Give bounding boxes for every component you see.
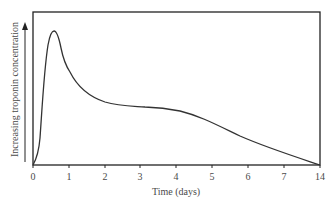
tick-label: 0	[31, 171, 36, 182]
tick-label: 6	[246, 171, 251, 182]
plot-frame	[33, 12, 320, 165]
y-axis-arrow-icon	[22, 22, 28, 162]
troponin-chart: 0 1 2 3 4 5 6 7 14 Time (days) Increasin…	[0, 0, 331, 208]
tick-label: 7	[282, 171, 287, 182]
tick-label: 1	[67, 171, 72, 182]
x-tick-labels: 0 1 2 3 4 5 6 7 14	[31, 171, 326, 182]
tick-label: 14	[315, 171, 325, 182]
tick-label: 5	[210, 171, 215, 182]
tick-label: 3	[138, 171, 143, 182]
tick-label: 4	[174, 171, 179, 182]
y-axis-label: Increasing troponin concentration	[9, 22, 20, 157]
x-axis-label: Time (days)	[152, 186, 200, 198]
tick-label: 2	[103, 171, 108, 182]
troponin-curve	[33, 31, 320, 165]
